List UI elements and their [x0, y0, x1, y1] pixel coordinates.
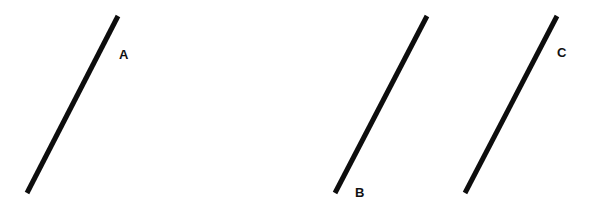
diagram-canvas: [0, 0, 594, 211]
label-a: A: [119, 48, 128, 61]
line-segment-a: [27, 16, 118, 193]
label-c: C: [557, 46, 566, 59]
label-b: B: [355, 186, 364, 199]
line-segment-c: [465, 16, 557, 193]
line-segment-b: [335, 16, 427, 193]
